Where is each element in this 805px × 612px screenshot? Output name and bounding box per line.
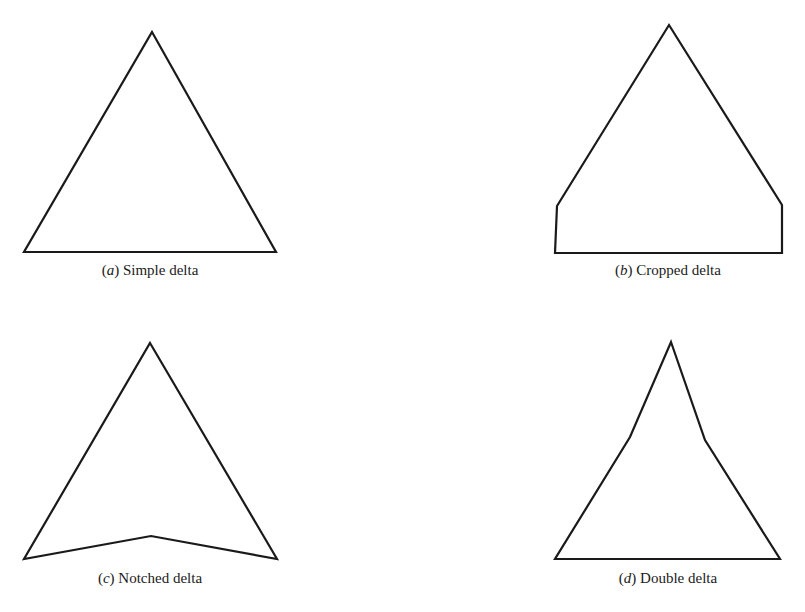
caption-notched-delta: (c) Notched delta: [98, 570, 202, 587]
cropped-delta-shape: [555, 25, 782, 253]
notched-delta-shape: [24, 343, 277, 559]
simple-delta-shape: [24, 32, 276, 252]
caption-text: Cropped delta: [636, 262, 721, 278]
delta-wing-diagram: [0, 0, 805, 612]
caption-text: Double delta: [640, 570, 717, 586]
caption-letter: d: [624, 570, 632, 586]
caption-text: Simple delta: [123, 262, 198, 278]
caption-letter: b: [620, 262, 628, 278]
caption-cropped-delta: (b) Cropped delta: [615, 262, 721, 279]
caption-letter: c: [103, 570, 110, 586]
caption-simple-delta: (a) Simple delta: [102, 262, 199, 279]
double-delta-shape: [555, 342, 780, 559]
caption-double-delta: (d) Double delta: [619, 570, 717, 587]
caption-text: Notched delta: [118, 570, 202, 586]
caption-letter: a: [107, 262, 115, 278]
